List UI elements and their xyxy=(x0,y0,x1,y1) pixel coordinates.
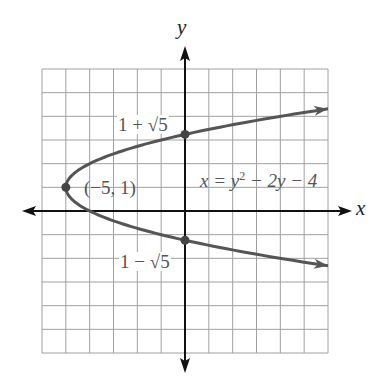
y-axis-label: y xyxy=(177,17,186,38)
vertex-label: (−5, 1) xyxy=(84,178,136,197)
axes xyxy=(22,46,352,373)
x-axis-label: x xyxy=(356,198,365,219)
equation-suffix: − 2y − 4 xyxy=(245,170,317,191)
parabola-plot xyxy=(0,0,389,387)
equation-label: x = y2 − 2y − 4 xyxy=(200,170,317,190)
lower-intercept-label: 1 − √5 xyxy=(119,252,171,271)
equation-prefix: x = y xyxy=(200,170,239,191)
upper-intercept-label: 1 + √5 xyxy=(117,115,169,134)
